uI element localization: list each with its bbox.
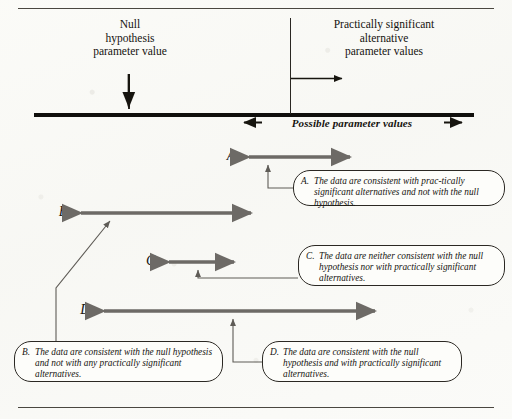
row-letter-d: D: bbox=[61, 302, 95, 318]
row-letter-a: A: bbox=[206, 148, 240, 164]
callout-text-c: The data are neither consistent with the… bbox=[319, 251, 495, 285]
practical-alternatives-label: Practically significant alternative para… bbox=[300, 18, 468, 59]
callout-box-c: C. The data are neither consistent with … bbox=[298, 245, 505, 286]
null-hypothesis-tick bbox=[128, 74, 130, 109]
leader-line-a bbox=[268, 165, 293, 188]
callout-text-a: The data are consistent with prac-ticall… bbox=[314, 176, 495, 210]
callout-text-d: The data are consistent with the null hy… bbox=[283, 347, 452, 381]
diagram-page: Null hypothesis parameter value Practica… bbox=[0, 0, 512, 419]
callout-tag-b: B. bbox=[22, 347, 34, 358]
null-hypothesis-label: Null hypothesis parameter value bbox=[68, 18, 192, 59]
page-rule-bottom bbox=[18, 407, 494, 408]
leader-line-b bbox=[56, 221, 110, 341]
callout-tag-a: A. bbox=[301, 176, 313, 187]
callout-box-b: B. The data are consistent with the null… bbox=[14, 341, 223, 382]
callout-box-a: A. The data are consistent with prac-tic… bbox=[293, 170, 505, 206]
callout-text-b: The data are consistent with the null hy… bbox=[35, 347, 213, 381]
practical-threshold-divider bbox=[290, 18, 291, 114]
row-letter-c: C: bbox=[126, 253, 160, 269]
callout-tag-c: C. bbox=[306, 251, 318, 262]
leader-line-c bbox=[198, 270, 298, 278]
possible-parameter-values-caption: Possible parameter values bbox=[236, 117, 468, 129]
page-rule-top bbox=[18, 8, 494, 9]
row-letter-b: B: bbox=[38, 204, 72, 220]
callout-box-d: D. The data are consistent with the null… bbox=[262, 341, 462, 382]
callout-tag-d: D. bbox=[270, 347, 282, 358]
leader-line-d bbox=[233, 319, 262, 362]
